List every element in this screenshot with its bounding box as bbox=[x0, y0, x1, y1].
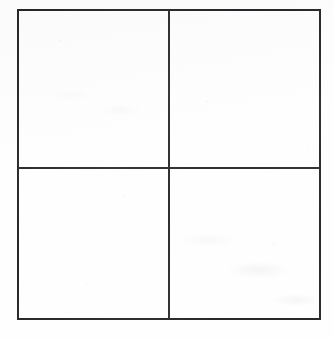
quadrant-cell-top-right-text bbox=[170, 11, 319, 167]
quadrant-cell-top-left[interactable] bbox=[19, 11, 168, 167]
scanned-page bbox=[0, 0, 334, 338]
quadrant-cell-bottom-left[interactable] bbox=[19, 169, 168, 318]
quadrant-cell-bottom-right[interactable] bbox=[170, 169, 319, 318]
quadrant-cell-top-right[interactable] bbox=[170, 11, 319, 167]
grid-border-right bbox=[319, 9, 321, 320]
quadrant-grid-figure bbox=[17, 9, 321, 320]
quadrant-cell-bottom-left-text bbox=[19, 169, 168, 318]
quadrant-cell-top-left-text bbox=[19, 11, 168, 167]
quadrant-cell-bottom-right-text bbox=[170, 169, 319, 318]
